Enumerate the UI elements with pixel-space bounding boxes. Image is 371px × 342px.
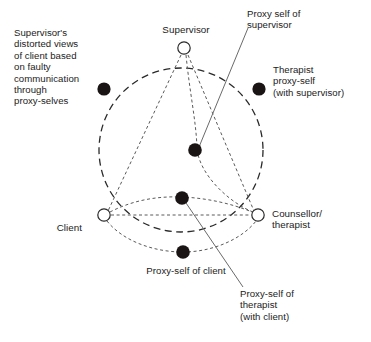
leader-line-proxy-self-supervisor [199, 28, 248, 147]
node-client[interactable] [98, 209, 110, 221]
label-node-supervisor: Supervisor [155, 24, 217, 35]
dot-proxy-self-of-client[interactable] [176, 245, 190, 259]
edge-supervisor-client [108, 55, 181, 211]
outer-circle [99, 68, 263, 232]
dot-proxy-self-of-therapist-with-client[interactable] [175, 191, 189, 205]
label-node-client: Client [32, 222, 82, 233]
dot-proxy-self-of-supervisor[interactable] [188, 143, 202, 157]
label-node-counsellor-therapist: Counsellor/ therapist [272, 208, 354, 231]
node-counsellor-therapist[interactable] [252, 209, 264, 221]
label-therapist-proxy-self-with-supervisor: Therapist proxy-self (with supervisor) [273, 64, 371, 98]
node-supervisor[interactable] [178, 42, 190, 54]
arc-supervisor-proxy-counsellor [186, 55, 253, 212]
label-supervisor-distorted-views: Supervisor's distorted views of client b… [14, 27, 110, 107]
label-proxy-self-of-supervisor: Proxy self of supervisor [247, 8, 357, 31]
label-proxy-self-of-client: Proxy-self of client [119, 265, 253, 276]
label-proxy-self-of-therapist-with-client: Proxy-self of therapist (with client) [240, 288, 360, 322]
diagram-root: Supervisor's distorted views of client b… [0, 0, 371, 342]
dot-therapist-proxy-self-with-supervisor[interactable] [252, 82, 265, 95]
